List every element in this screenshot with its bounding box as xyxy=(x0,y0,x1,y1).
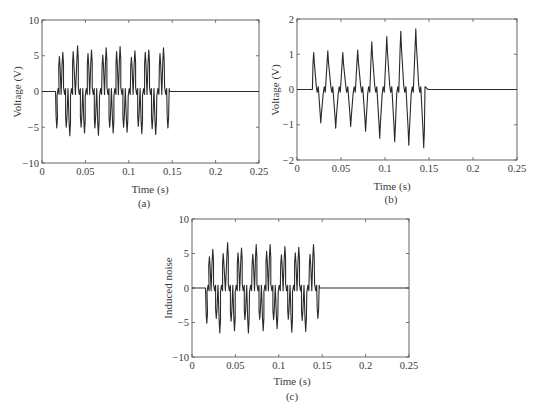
waveform-trace xyxy=(192,243,409,333)
x-tick-label: 0.1 xyxy=(272,360,285,371)
y-tick-label: 0 xyxy=(184,283,189,294)
x-axis-label-c: Time (s) xyxy=(273,375,311,388)
plot-area-c: 00.050.10.150.20.25−10−50510 xyxy=(173,214,419,372)
chart-panel-c: 00.050.10.150.20.25−10−50510 Induced noi… xyxy=(0,0,544,410)
x-tick-label: 0.15 xyxy=(313,360,331,371)
y-tick-label: 5 xyxy=(184,248,189,259)
y-tick-label: −5 xyxy=(178,317,189,328)
x-tick-label: 0.05 xyxy=(226,360,244,371)
y-tick-label: 10 xyxy=(179,214,190,225)
y-tick-label: −10 xyxy=(173,352,189,363)
y-axis-label-c: Induced noise xyxy=(162,257,174,319)
x-tick-label: 0.2 xyxy=(359,360,372,371)
caption-c: (c) xyxy=(286,390,299,403)
x-tick-label: 0.25 xyxy=(400,360,418,371)
x-tick-label: 0 xyxy=(189,360,194,371)
chart-c-svg: 00.050.10.150.20.25−10−50510 Induced noi… xyxy=(0,0,544,410)
